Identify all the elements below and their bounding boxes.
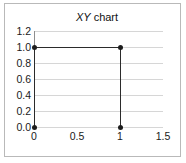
chart-title: XY chart — [30, 11, 164, 23]
gridline — [34, 95, 163, 96]
x-tick-label: 0 — [17, 130, 51, 142]
y-tick-label: 0.6 — [7, 74, 31, 84]
y-axis-tick-labels: 0.00.20.40.60.81.01.2 — [6, 31, 31, 127]
plot-area — [34, 31, 163, 127]
x-tick-label: 1 — [103, 130, 137, 142]
y-tick-label: 0.4 — [7, 90, 31, 100]
y-tick-label: 1.2 — [7, 26, 31, 36]
gridline — [34, 31, 163, 32]
chart-title-italic: XY — [76, 11, 91, 23]
y-tick-label: 0.2 — [7, 106, 31, 116]
data-point-marker — [32, 125, 37, 130]
gridline — [34, 79, 163, 80]
chart-title-regular: chart — [91, 11, 119, 23]
gridline — [34, 127, 163, 128]
data-point-marker — [32, 45, 37, 50]
y-tick-label: 0.8 — [7, 58, 31, 68]
x-tick-label: 0.5 — [60, 130, 94, 142]
data-point-marker — [118, 125, 123, 130]
series-segment — [120, 47, 122, 127]
x-tick-label: 1.5 — [146, 130, 180, 142]
gridline — [34, 63, 163, 64]
series-segment — [34, 47, 36, 127]
x-axis-tick-labels: 00.511.5 — [34, 130, 163, 144]
gridline — [34, 111, 163, 112]
y-tick-label: 1.0 — [7, 42, 31, 52]
xy-chart: XY chart 0.00.20.40.60.81.01.2 00.511.5 — [0, 0, 186, 163]
data-point-marker — [118, 45, 123, 50]
series-segment — [34, 47, 120, 49]
